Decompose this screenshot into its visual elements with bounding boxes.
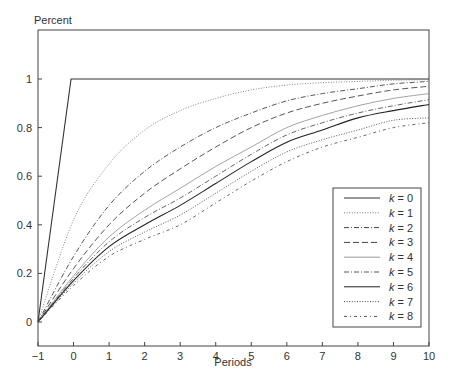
x-tick-label: 10 [423,350,435,362]
x-axis-label: Periods [214,356,252,368]
y-tick-label: 0 [26,316,32,328]
legend-label-k8: k = 8 [389,310,413,322]
x-tick-label: 6 [284,350,290,362]
legend-label-k0: k = 0 [389,192,413,204]
y-tick-label: 0.2 [17,267,32,279]
x-tick-label: 1 [106,350,112,362]
chart-canvas: Percent 00.20.40.60.81 −1012345678910 Pe… [0,0,451,388]
y-tick-label: 1 [26,73,32,85]
x-tick-label: −1 [32,350,45,362]
y-axis-label: Percent [34,14,72,26]
x-tick-label: 7 [319,350,325,362]
legend-label-k4: k = 4 [389,251,413,263]
x-tick-label: 8 [355,350,361,362]
y-tick-label: 0.8 [17,122,32,134]
legend-label-k5: k = 5 [389,266,413,278]
legend-label-k1: k = 1 [389,207,413,219]
x-tick-label: 2 [142,350,148,362]
legend-label-k7: k = 7 [389,296,413,308]
legend-label-k3: k = 3 [389,236,413,248]
legend-label-k2: k = 2 [389,222,413,234]
legend-label-k6: k = 6 [389,281,413,293]
x-tick-label: 3 [177,350,183,362]
y-tick-label: 0.4 [17,219,32,231]
legend: k = 0k = 1k = 2k = 3k = 4k = 5k = 6k = 7… [333,188,421,327]
x-tick-label: 0 [70,350,76,362]
y-tick-label: 0.6 [17,170,32,182]
x-tick-label: 9 [390,350,396,362]
